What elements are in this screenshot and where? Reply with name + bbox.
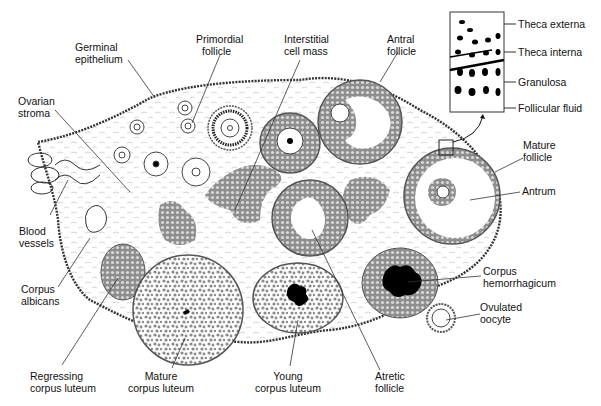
label-antrum: Antrum bbox=[522, 185, 556, 197]
label-line: corpus luteum bbox=[255, 382, 321, 394]
label-line: Primordial bbox=[196, 33, 243, 45]
label-line: Theca interna bbox=[518, 46, 582, 58]
label-regressing-corpus-luteum: Regressing corpus luteum bbox=[30, 370, 96, 394]
follicle-wall-inset bbox=[450, 12, 516, 112]
label-line: Regressing bbox=[30, 370, 96, 382]
label-germinal-epithelium: Germinal epithelium bbox=[75, 41, 123, 65]
label-line: Mature bbox=[128, 370, 194, 382]
mature-corpus-luteum-shape bbox=[133, 255, 243, 365]
growing-follicle bbox=[208, 106, 252, 150]
label-line: corpus luteum bbox=[30, 382, 96, 394]
atretic-follicle-shape bbox=[272, 180, 348, 256]
label-line: Follicular fluid bbox=[518, 102, 582, 114]
label-mature-corpus-luteum: Mature corpus luteum bbox=[128, 370, 194, 394]
corpus-albicans-shape bbox=[85, 205, 106, 232]
young-corpus-luteum-shape bbox=[253, 263, 343, 333]
label-line: Corpus bbox=[483, 265, 556, 277]
label-line: Blood bbox=[19, 225, 54, 237]
label-line: follicle bbox=[196, 45, 243, 57]
label-line: Atretic bbox=[375, 370, 405, 382]
label-line: follicle bbox=[375, 382, 405, 394]
label-antral-follicle: Antral follicle bbox=[387, 33, 416, 57]
label-line: follicle bbox=[523, 151, 556, 163]
label-mature-follicle: Mature follicle bbox=[523, 139, 556, 163]
label-line: corpus luteum bbox=[128, 382, 194, 394]
label-corpus-hemorrhagicum: Corpus hemorrhagicum bbox=[483, 265, 556, 289]
label-ovulated-oocyte: Ovulated oocyte bbox=[480, 301, 522, 325]
label-line: Interstitial bbox=[284, 33, 329, 45]
label-line: Antrum bbox=[522, 185, 556, 197]
label-line: vessels bbox=[19, 237, 54, 249]
corpus-hemorrhagicum-shape bbox=[362, 248, 438, 318]
label-line: Ovarian bbox=[18, 95, 55, 107]
label-line: Granulosa bbox=[518, 76, 566, 88]
label-line: Corpus bbox=[21, 283, 60, 295]
label-primordial-follicle: Primordial follicle bbox=[196, 33, 243, 57]
secondary-follicle bbox=[260, 113, 320, 173]
label-line: albicans bbox=[21, 295, 60, 307]
label-blood-vessels: Blood vessels bbox=[19, 225, 54, 249]
inset-label-theca-interna: Theca interna bbox=[518, 46, 582, 58]
label-corpus-albicans: Corpus albicans bbox=[21, 283, 60, 307]
label-ovarian-stroma: Ovarian stroma bbox=[18, 95, 55, 119]
inset-label-theca-externa: Theca externa bbox=[518, 18, 585, 30]
label-line: follicle bbox=[387, 45, 416, 57]
label-line: Young bbox=[255, 370, 321, 382]
label-atretic-follicle: Atretic follicle bbox=[375, 370, 405, 394]
label-line: Germinal bbox=[75, 41, 123, 53]
inset-label-granulosa: Granulosa bbox=[518, 76, 566, 88]
label-line: Mature bbox=[523, 139, 556, 151]
label-line: Ovulated bbox=[480, 301, 522, 313]
label-line: stroma bbox=[18, 107, 55, 119]
inset-label-follicular-fluid: Follicular fluid bbox=[518, 102, 582, 114]
label-young-corpus-luteum: Young corpus luteum bbox=[255, 370, 321, 394]
label-line: hemorrhagicum bbox=[483, 277, 556, 289]
antral-follicle-shape bbox=[318, 80, 402, 164]
label-line: oocyte bbox=[480, 313, 522, 325]
label-line: epithelium bbox=[75, 53, 123, 65]
label-line: cell mass bbox=[284, 45, 329, 57]
ovulated-oocyte-shape bbox=[427, 304, 455, 332]
label-line: Antral bbox=[387, 33, 416, 45]
label-line: Theca externa bbox=[518, 18, 585, 30]
label-interstitial-cell-mass: Interstitial cell mass bbox=[284, 33, 329, 57]
